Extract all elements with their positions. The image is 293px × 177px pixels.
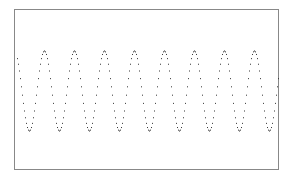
data-point [222, 54, 223, 55]
data-point [115, 117, 116, 118]
data-point [160, 64, 161, 65]
data-point [182, 123, 183, 124]
data-point [125, 103, 126, 104]
data-point [226, 54, 227, 55]
data-point [209, 131, 210, 132]
data-point [97, 86, 98, 87]
data-point [172, 95, 173, 96]
data-point [149, 131, 150, 132]
data-point [133, 51, 134, 52]
data-point [244, 111, 245, 112]
data-point [109, 71, 110, 72]
data-point [180, 130, 181, 131]
data-point [72, 54, 73, 55]
data-point [77, 58, 78, 59]
data-point [79, 71, 80, 72]
data-point [84, 111, 85, 112]
data-point [120, 130, 121, 131]
data-point [119, 131, 120, 132]
data-point [270, 130, 271, 131]
data-point [44, 51, 45, 52]
data-point [28, 130, 29, 131]
data-point [73, 51, 74, 52]
data-point [196, 54, 197, 55]
data-point [131, 58, 132, 59]
data-point [275, 103, 276, 104]
data-point [83, 103, 84, 104]
data-point [137, 58, 138, 59]
data-point [208, 130, 209, 131]
data-point [271, 127, 272, 128]
data-point [38, 78, 39, 79]
data-point [260, 78, 261, 79]
chart [0, 0, 293, 177]
data-point [165, 51, 166, 52]
data-point [239, 131, 240, 132]
data-point [90, 130, 91, 131]
data-point [107, 58, 108, 59]
data-point [201, 86, 202, 87]
data-point [151, 127, 152, 128]
data-point [45, 51, 46, 52]
data-point [211, 127, 212, 128]
data-point [22, 95, 23, 96]
data-point [91, 127, 92, 128]
data-point [98, 78, 99, 79]
data-point [234, 111, 235, 112]
data-point [128, 78, 129, 79]
data-point [261, 86, 262, 87]
data-point [188, 78, 189, 79]
data-point [185, 103, 186, 104]
data-point [112, 95, 113, 96]
data-point [142, 95, 143, 96]
data-point [143, 103, 144, 104]
data-point [78, 64, 79, 65]
data-point [25, 117, 26, 118]
data-point [264, 111, 265, 112]
data-point [152, 123, 153, 124]
data-point [217, 86, 218, 87]
data-point [69, 71, 70, 72]
data-point [177, 127, 178, 128]
data-point [116, 123, 117, 124]
data-point [129, 71, 130, 72]
data-point [89, 131, 90, 132]
data-point [93, 117, 94, 118]
data-point [186, 95, 187, 96]
data-point [145, 117, 146, 118]
data-point [189, 71, 190, 72]
data-point [60, 130, 61, 131]
data-point [82, 95, 83, 96]
data-point [43, 51, 44, 52]
data-point [249, 71, 250, 72]
data-point [178, 130, 179, 131]
data-point [148, 130, 149, 131]
data-point [237, 127, 238, 128]
data-point [132, 54, 133, 55]
data-point [262, 95, 263, 96]
data-point [126, 95, 127, 96]
data-point [104, 51, 105, 52]
data-point [266, 123, 267, 124]
data-point [191, 58, 192, 59]
data-point [150, 130, 151, 131]
data-point [55, 117, 56, 118]
data-point [192, 54, 193, 55]
data-point [42, 54, 43, 55]
data-point [199, 71, 200, 72]
data-point [224, 51, 225, 52]
data-point [154, 111, 155, 112]
data-point [58, 130, 59, 131]
data-point [168, 64, 169, 65]
data-point [204, 111, 205, 112]
data-point [30, 130, 31, 131]
data-point [59, 131, 60, 132]
data-point [166, 54, 167, 55]
data-point [254, 51, 255, 52]
data-point [207, 127, 208, 128]
data-point [52, 95, 53, 96]
data-point [101, 58, 102, 59]
data-point [117, 127, 118, 128]
data-point [36, 95, 37, 96]
data-point [81, 86, 82, 87]
